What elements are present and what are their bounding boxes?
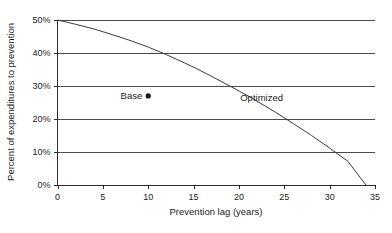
- series-line-optimized: [58, 20, 366, 185]
- y-tick-label-40: 40%: [32, 48, 50, 58]
- y-tick-label-30: 30%: [32, 81, 50, 91]
- x-tick-label-15: 15: [189, 192, 199, 202]
- y-tick-label-50: 50%: [32, 15, 50, 25]
- chart-container: 0%10%20%30%40%50% 05101520253035 Optimiz…: [0, 0, 392, 233]
- series-annotations: OptimizedBase: [121, 90, 283, 103]
- data-series: [58, 20, 366, 185]
- x-tick-label-35: 35: [370, 192, 380, 202]
- y-tick-label-20: 20%: [32, 114, 50, 124]
- y-tick-label-0: 0%: [37, 180, 50, 190]
- prevention-lag-line-chart: 0%10%20%30%40%50% 05101520253035 Optimiz…: [0, 0, 392, 233]
- y-tick-marks: [54, 21, 58, 186]
- data-point-base-0: [146, 93, 151, 98]
- x-tick-label-20: 20: [234, 192, 244, 202]
- y-axis-title: Percent of expenditures to prevention: [5, 23, 16, 181]
- y-tick-label-10: 10%: [32, 147, 50, 157]
- x-axis-title: Prevention lag (years): [170, 206, 263, 217]
- y-tick-labels: 0%10%20%30%40%50%: [32, 15, 50, 190]
- x-tick-label-25: 25: [279, 192, 289, 202]
- series-label-base: Base: [121, 90, 143, 101]
- x-tick-label-30: 30: [325, 192, 335, 202]
- gridlines: [58, 21, 376, 186]
- series-label-optimized: Optimized: [240, 92, 283, 103]
- x-tick-label-10: 10: [143, 192, 153, 202]
- x-tick-label-0: 0: [55, 192, 60, 202]
- axes: [58, 20, 376, 186]
- x-tick-labels: 05101520253035: [55, 192, 380, 202]
- x-tick-label-5: 5: [100, 192, 105, 202]
